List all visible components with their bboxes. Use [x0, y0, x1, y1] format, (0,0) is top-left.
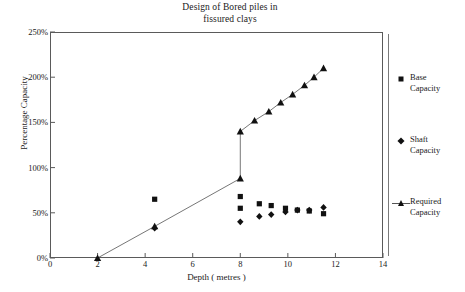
data-point-marker: [269, 203, 274, 208]
triangle-line-marker-icon: [392, 197, 410, 208]
data-point-marker: [152, 197, 157, 202]
data-point-marker: [94, 254, 101, 261]
data-point-marker: [151, 223, 158, 230]
legend-label-base-line-2: Capacity: [410, 83, 440, 94]
chart-figure: Design of Bored piles in fissured clays …: [0, 0, 465, 292]
legend-label-base-line-1: Base: [410, 72, 440, 83]
legend-label-shaft-line-2: Capacity: [410, 145, 440, 156]
legend-label-base-capacity: Base Capacity: [410, 72, 440, 93]
data-point-marker: [289, 91, 296, 98]
data-point-marker: [320, 65, 327, 72]
data-point-marker: [277, 99, 284, 106]
legend-separator: [388, 34, 389, 256]
series-layer: [94, 65, 327, 261]
data-point-marker: [237, 128, 244, 135]
data-point-marker: [256, 213, 262, 220]
data-point-marker: [238, 206, 243, 211]
data-point-marker: [237, 218, 243, 225]
legend-label-required-line-1: Required: [410, 196, 441, 207]
data-point-marker: [251, 117, 258, 124]
legend-label-shaft-line-1: Shaft: [410, 134, 440, 145]
diamond-marker-icon: [392, 135, 410, 146]
legend-label-required-capacity: Required Capacity: [410, 196, 441, 217]
data-point-marker: [268, 211, 274, 218]
tick-marks: [50, 32, 383, 258]
data-point-marker: [238, 194, 243, 199]
data-point-marker: [265, 108, 272, 115]
legend-label-required-line-2: Capacity: [410, 207, 441, 218]
data-point-marker: [237, 175, 244, 182]
data-point-marker: [320, 204, 326, 211]
square-marker-icon: [392, 73, 410, 84]
legend-item-base-capacity[interactable]: Base Capacity: [392, 72, 465, 93]
legend-item-shaft-capacity[interactable]: Shaft Capacity: [392, 134, 465, 155]
chart-legend: Base Capacity Shaft Capacity Required Ca…: [388, 34, 465, 256]
data-point-marker: [257, 201, 262, 206]
legend-item-required-capacity[interactable]: Required Capacity: [392, 196, 465, 217]
data-point-marker: [321, 211, 326, 216]
legend-label-shaft-capacity: Shaft Capacity: [410, 134, 440, 155]
